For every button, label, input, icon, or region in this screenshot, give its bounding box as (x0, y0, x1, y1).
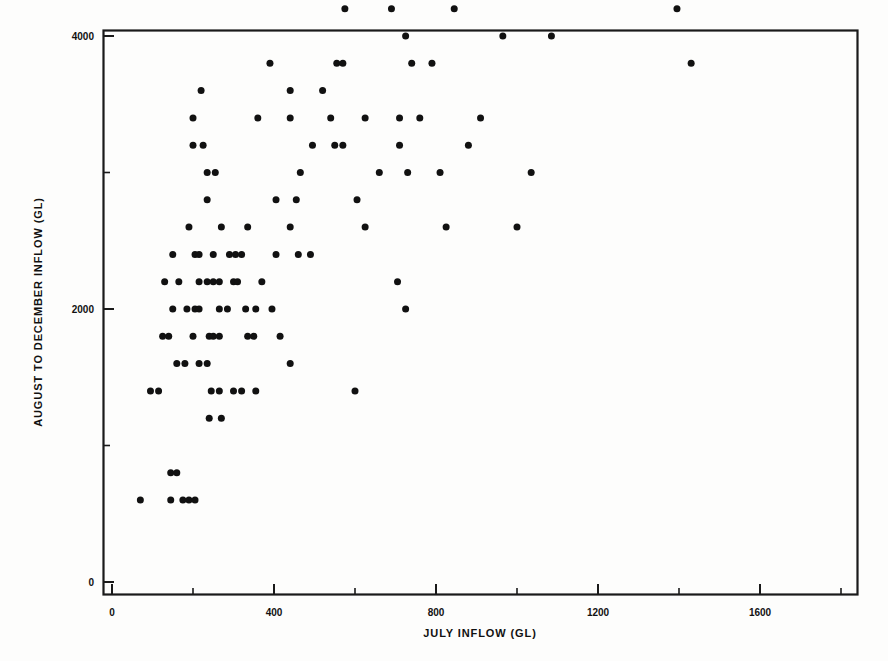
data-point (198, 87, 205, 94)
y-tick-label: 2000 (72, 304, 95, 315)
data-point (185, 224, 192, 231)
data-point (216, 278, 223, 285)
data-point (307, 251, 314, 258)
data-point (404, 169, 411, 176)
data-point (408, 60, 415, 67)
data-point (167, 497, 174, 504)
x-axis-minor-ticks (193, 588, 841, 594)
data-point (218, 415, 225, 422)
data-point (354, 196, 361, 203)
data-point (499, 33, 506, 40)
data-point (165, 333, 172, 340)
scatter-data-points (137, 0, 695, 504)
scatter-plot: 040080012001600 0200040006000 JULY INFLO… (0, 0, 888, 661)
data-point (196, 360, 203, 367)
data-point (673, 5, 680, 12)
x-axis-tick-labels: 040080012001600 (109, 607, 771, 618)
data-point (230, 387, 237, 394)
y-tick-label: 0 (88, 577, 94, 588)
data-point (341, 5, 348, 12)
data-point (210, 333, 217, 340)
data-point (212, 169, 219, 176)
data-point (688, 60, 695, 67)
data-point (155, 387, 162, 394)
data-point (277, 333, 284, 340)
x-tick-label: 400 (266, 607, 283, 618)
data-point (181, 360, 188, 367)
data-point (169, 251, 176, 258)
data-point (204, 278, 211, 285)
data-point (327, 114, 334, 121)
data-point (297, 169, 304, 176)
data-point (514, 224, 521, 231)
data-point (268, 306, 275, 313)
data-point (362, 114, 369, 121)
data-point (234, 278, 241, 285)
data-point (309, 142, 316, 149)
data-point (185, 497, 192, 504)
data-point (196, 306, 203, 313)
data-point (465, 142, 472, 149)
data-point (238, 251, 245, 258)
data-point (258, 278, 265, 285)
data-point (238, 387, 245, 394)
data-point (206, 415, 213, 422)
data-point (287, 114, 294, 121)
data-point (477, 114, 484, 121)
data-point (147, 387, 154, 394)
data-point (250, 333, 257, 340)
data-point (396, 114, 403, 121)
data-point (352, 387, 359, 394)
data-point (183, 306, 190, 313)
data-point (402, 33, 409, 40)
data-point (190, 114, 197, 121)
data-point (293, 196, 300, 203)
data-point (216, 387, 223, 394)
data-point (287, 360, 294, 367)
data-point (190, 142, 197, 149)
data-point (161, 278, 168, 285)
data-point (175, 278, 182, 285)
data-point (266, 60, 273, 67)
data-point (402, 306, 409, 313)
data-point (339, 142, 346, 149)
data-point (204, 360, 211, 367)
data-point (204, 196, 211, 203)
data-point (273, 251, 280, 258)
data-point (179, 497, 186, 504)
chart-figure: 040080012001600 0200040006000 JULY INFLO… (0, 0, 888, 661)
data-point (216, 333, 223, 340)
data-point (451, 5, 458, 12)
data-point (287, 224, 294, 231)
data-point (224, 306, 231, 313)
data-point (416, 114, 423, 121)
data-point (333, 60, 340, 67)
x-axis-title: JULY INFLOW (GL) (423, 627, 536, 639)
data-point (339, 60, 346, 67)
data-point (388, 5, 395, 12)
data-point (216, 306, 223, 313)
data-point (376, 169, 383, 176)
data-point (548, 33, 555, 40)
data-point (218, 224, 225, 231)
y-axis-major-ticks (104, 0, 114, 582)
data-point (167, 469, 174, 476)
data-point (169, 306, 176, 313)
data-point (252, 387, 259, 394)
data-point (192, 497, 199, 504)
data-point (173, 360, 180, 367)
data-point (208, 387, 215, 394)
data-point (232, 251, 239, 258)
data-point (226, 251, 233, 258)
data-point (437, 169, 444, 176)
data-point (242, 306, 249, 313)
data-point (528, 169, 535, 176)
data-point (287, 87, 294, 94)
data-point (173, 469, 180, 476)
data-point (196, 251, 203, 258)
data-point (137, 497, 144, 504)
data-point (244, 224, 251, 231)
y-tick-label: 4000 (72, 31, 95, 42)
data-point (210, 278, 217, 285)
data-point (319, 87, 326, 94)
